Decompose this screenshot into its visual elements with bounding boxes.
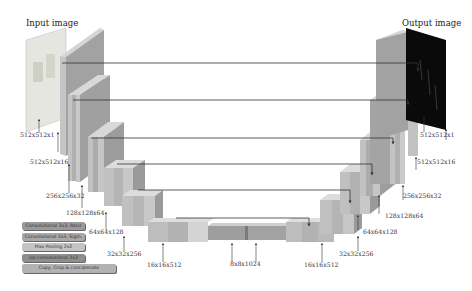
decoder-dim-label: 128x128x64 <box>385 212 423 219</box>
legend-item-up-conv: Up-convolutional 2x2 <box>22 254 85 262</box>
encoder-dim-label: 16x16x512 <box>147 261 182 268</box>
encoder-dim-label: 128x128x64 <box>66 209 104 216</box>
output-image-slab <box>406 28 446 130</box>
decoder-dim-label: 512x512x16 <box>417 158 455 165</box>
legend: Convolutional 3x3, ReLU Convolutional 3x… <box>22 222 116 276</box>
output-image-title: Output image <box>402 18 461 28</box>
encoder-dim-label: 512x512x16 <box>30 158 68 165</box>
legend-item-conv-relu: Convolutional 3x3, ReLU <box>22 222 85 230</box>
decoder-dim-label: 256x256x32 <box>403 192 441 199</box>
decoder-dim-label: 512x512x1 <box>420 131 455 138</box>
input-image-title: Input image <box>26 18 78 28</box>
encoder-dim-label: 512x512x1 <box>20 131 55 138</box>
bottleneck-dim-label: 8x8x1024 <box>230 260 261 267</box>
decoder-dim-label: 16x16x512 <box>304 261 339 268</box>
encoder-dim-label: 256x256x32 <box>46 192 84 199</box>
encoder-block-level-6 <box>148 218 214 242</box>
bottleneck-block <box>208 223 298 240</box>
decoder-dim-label: 32x32x256 <box>339 250 374 257</box>
legend-item-copy-crop-concat: Copy, Crop & concatenate <box>22 264 116 273</box>
decoder-dim-label: 64x64x128 <box>363 228 398 235</box>
legend-item-conv-sigmoid: Convolutional 3x3, Sigm. <box>22 233 85 241</box>
legend-item-max-pooling: Max Pooling 2x2 <box>22 243 85 251</box>
